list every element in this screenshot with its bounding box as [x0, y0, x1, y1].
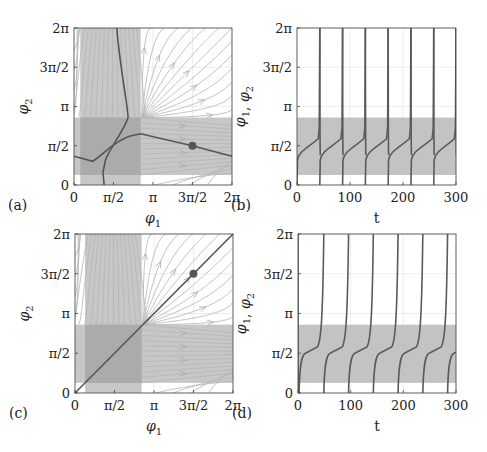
x-tick-label: π/2: [103, 190, 124, 205]
y-tick-label: π: [61, 306, 70, 321]
x-tick-label: π/2: [104, 398, 125, 413]
y-tick-label: π/2: [48, 139, 69, 154]
panel-d: 01002003000π/2π3π/22πtφ1, φ2(d): [232, 227, 472, 434]
x-tick-label: 3π/2: [179, 398, 208, 413]
y-tick-label: 0: [62, 386, 70, 401]
shaded-overlap: [80, 118, 140, 175]
y-tick-label: 2π: [53, 227, 70, 242]
x-tick-label: 100: [338, 190, 363, 205]
y-tick-label: 0: [61, 178, 69, 193]
shaded-band: [298, 325, 456, 383]
x-tick-label: 0: [70, 190, 78, 205]
panel-a: 0π/2π3π/22π0π/2π3π/22πφ1φ2(a): [8, 21, 241, 229]
x-tick-label: 3π/2: [178, 190, 207, 205]
x-tick-label: 0: [293, 190, 301, 205]
y-tick-label: π/2: [271, 139, 292, 154]
y-tick-label: 3π/2: [41, 267, 70, 282]
panel-label: (a): [8, 197, 27, 213]
y-tick-label: π/2: [272, 346, 293, 361]
y-axis-label: φ1, φ2: [233, 293, 256, 334]
panel-b: 01002003000π/2π3π/22πtφ1, φ2(b): [231, 21, 468, 226]
y-tick-label: 0: [284, 178, 292, 193]
fixed-point-marker: [188, 142, 196, 150]
x-tick-label: 200: [391, 190, 416, 205]
y-axis-label: φ2: [15, 98, 34, 114]
figure: 0π/2π3π/22π0π/2π3π/22πφ1φ2(a)0π/2π3π/22π…: [0, 0, 487, 452]
y-tick-label: 3π/2: [264, 267, 293, 282]
panel-label: (d): [232, 405, 252, 421]
panel-label: (b): [231, 197, 251, 213]
x-axis-label: t: [374, 210, 380, 226]
y-tick-label: 3π/2: [40, 60, 69, 75]
x-axis-label: t: [374, 418, 380, 434]
y-tick-label: π: [284, 306, 293, 321]
x-tick-label: 0: [294, 398, 302, 413]
x-tick-label: π: [150, 398, 159, 413]
x-tick-label: 300: [444, 398, 469, 413]
x-tick-label: π: [149, 190, 158, 205]
y-tick-label: 2π: [275, 21, 292, 36]
y-tick-label: 3π/2: [263, 60, 292, 75]
y-tick-label: π: [283, 99, 292, 114]
x-tick-label: 300: [444, 190, 469, 205]
y-tick-label: 2π: [276, 227, 293, 242]
y-tick-label: 2π: [52, 21, 69, 36]
y-tick-label: π/2: [49, 346, 70, 361]
panel-c: 0π/2π3π/22π0π/2π3π/22πφ1φ2(c): [9, 227, 242, 437]
x-axis-label: φ1: [145, 210, 161, 229]
x-tick-label: 200: [391, 398, 416, 413]
fixed-point-marker: [189, 270, 197, 278]
panel-label: (c): [9, 405, 28, 421]
y-tick-label: π: [60, 99, 69, 114]
y-axis-label: φ1, φ2: [232, 86, 255, 127]
x-tick-label: 0: [71, 398, 79, 413]
x-tick-label: 100: [338, 398, 363, 413]
x-axis-label: φ1: [146, 418, 162, 437]
y-axis-label: φ2: [16, 305, 35, 321]
y-tick-label: 0: [285, 386, 293, 401]
